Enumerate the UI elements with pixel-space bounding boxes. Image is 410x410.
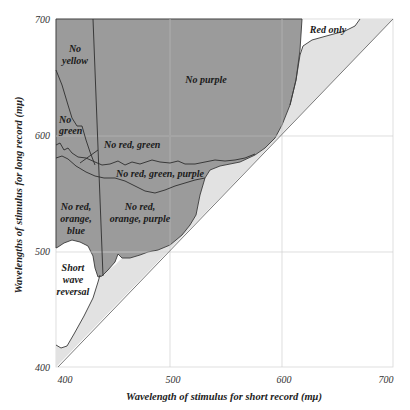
label-red-only: Red only <box>309 24 347 35</box>
y-tick-600: 600 <box>35 130 50 141</box>
label-short-wave-reversal-1: Short <box>62 262 86 273</box>
x-axis: 400 500 600 700 Wavelength of stimulus f… <box>58 374 394 403</box>
label-no-red-green: No red, green <box>103 139 161 150</box>
x-tick-600: 600 <box>277 374 292 385</box>
label-no-red-orange-blue-1: No red, <box>60 201 92 212</box>
y-tick-400: 400 <box>35 362 50 373</box>
label-no-yellow-1: No <box>68 43 81 54</box>
label-no-red-orange-blue-3: blue <box>67 225 85 236</box>
label-no-red-green-purple: No red, green, purple <box>115 168 205 179</box>
wavelength-chart: 700 600 500 400 Wavelengths of stimulus … <box>0 0 410 410</box>
label-no-purple: No purple <box>184 74 227 85</box>
x-tick-400: 400 <box>58 374 73 385</box>
x-tick-700: 700 <box>379 374 394 385</box>
label-short-wave-reversal-2: wave <box>63 274 84 285</box>
label-no-red-orange-blue-2: orange, <box>60 213 91 224</box>
label-no-yellow-2: yellow <box>61 55 88 66</box>
label-no-green-2: green <box>58 125 83 136</box>
label-no-green-1: No <box>58 114 71 125</box>
y-axis-title: Wavelengths of stimulus for long record … <box>13 97 25 294</box>
y-tick-700: 700 <box>35 14 50 25</box>
label-short-wave-reversal-3: reversal <box>57 286 90 297</box>
x-tick-500: 500 <box>166 374 181 385</box>
x-axis-title: Wavelength of stimulus for short record … <box>126 391 322 403</box>
y-axis: 700 600 500 400 Wavelengths of stimulus … <box>13 14 50 373</box>
label-no-red-orange-purple-2: orange, purple <box>110 213 171 224</box>
label-no-red-orange-purple-1: No red, <box>124 201 156 212</box>
y-tick-500: 500 <box>35 246 50 257</box>
